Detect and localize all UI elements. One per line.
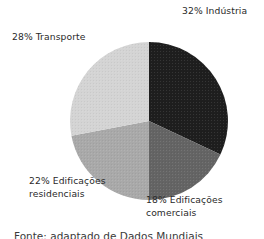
pie-label-edificacoes-residenciais: 22% Edificações residenciais <box>29 175 106 200</box>
pie-chart-figure: 32% Indústria 28% Transporte 22% Edifica… <box>0 0 264 239</box>
pie-label-industria: 32% Indústria <box>182 5 247 18</box>
figure-caption-text: Fonte: adaptado de Dados Mundiais <box>14 230 203 239</box>
pie-label-edificacoes-comerciais: 18% Edificações comerciais <box>146 194 223 219</box>
pie-slice-transporte-texture <box>70 42 149 136</box>
pie-label-transporte: 28% Transporte <box>12 31 86 44</box>
figure-caption-clipped: Fonte: adaptado de Dados Mundiais <box>0 230 264 239</box>
